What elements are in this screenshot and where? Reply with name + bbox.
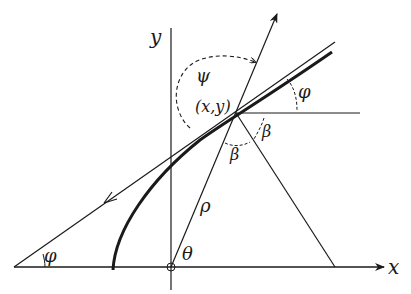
tangent-arrow-icon [104,192,117,203]
rho-label: ρ [199,195,211,216]
psi-arc [176,56,255,128]
phi-bottom-label: φ [44,245,57,266]
point-label: (x,y) [195,97,231,116]
normal-down-line [236,113,335,267]
phi-arc-top [287,79,297,110]
phi-top-label: φ [298,81,311,102]
diagram: y x (x,y) ψ φ β β ρ θ φ [0,0,411,294]
x-axis-label: x [388,255,399,279]
beta-lower-label: β [229,145,239,164]
theta-label: θ [182,243,193,264]
tangent-line [14,42,335,267]
y-axis-label: y [149,25,162,49]
beta-right-label: β [261,122,271,141]
psi-label: ψ [196,65,211,86]
